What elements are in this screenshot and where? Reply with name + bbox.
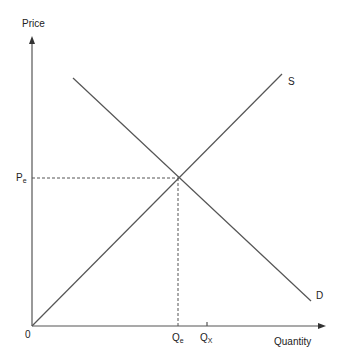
demand-curve — [73, 78, 311, 301]
y-axis-label: Price — [22, 18, 45, 29]
qx-label: QX — [200, 332, 212, 344]
pe-label: Pe — [16, 172, 27, 184]
origin-label: 0 — [25, 329, 31, 340]
supply-demand-diagram — [0, 0, 340, 359]
qe-label: Qe — [172, 332, 184, 344]
supply-label: S — [288, 76, 295, 87]
y-axis-arrow-icon — [29, 36, 35, 44]
supply-curve — [32, 74, 282, 326]
demand-label: D — [316, 290, 323, 301]
x-axis-arrow-icon — [318, 323, 326, 329]
x-axis-label: Quantity — [274, 336, 311, 347]
